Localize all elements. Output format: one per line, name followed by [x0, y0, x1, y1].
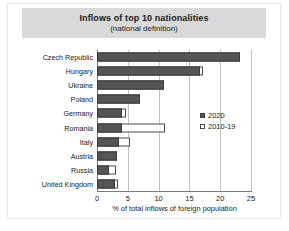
bar-row: United Kingdom [97, 177, 251, 191]
bar-row: Czech Republic [97, 50, 251, 64]
x-tick-label: 10 [154, 194, 162, 203]
category-label: Germany [63, 109, 93, 118]
bar-2020[interactable] [97, 53, 240, 62]
bar-row: Russia [97, 163, 251, 177]
bar-row: Poland [97, 92, 251, 106]
category-label: Italy [80, 137, 93, 146]
legend-item[interactable]: 2010-19 [200, 121, 236, 132]
bar-2020[interactable] [97, 179, 115, 188]
chart-subtitle: (national definition) [110, 24, 178, 34]
bar-group [97, 137, 251, 146]
category-label: Czech Republic [43, 53, 93, 62]
bar-row: Hungary [97, 64, 251, 78]
x-axis-line [97, 191, 252, 192]
bar-group [97, 67, 251, 76]
x-tick-label: 25 [247, 194, 255, 203]
chart-figure: Inflows of top 10 nationalities (nationa… [0, 0, 289, 231]
x-tick-label: 20 [216, 194, 224, 203]
category-label: Romania [64, 123, 93, 132]
bar-row: Austria [97, 149, 251, 163]
title-banner: Inflows of top 10 nationalities (nationa… [22, 8, 266, 38]
bar-row: Ukraine [97, 78, 251, 92]
legend-item[interactable]: 2020 [200, 110, 236, 121]
bar-row: Italy [97, 135, 251, 149]
category-label: Austria [71, 151, 93, 160]
legend-swatch-icon [200, 124, 205, 129]
gridline [251, 50, 252, 191]
legend-label: 2020 [208, 111, 225, 120]
bar-2020[interactable] [97, 137, 119, 146]
bar-group [97, 179, 251, 188]
x-tick-label: 0 [95, 194, 99, 203]
category-label: Poland [71, 95, 93, 104]
bar-group [97, 95, 251, 104]
category-label: Hungary [66, 67, 93, 76]
x-tick-label: 5 [126, 194, 130, 203]
bar-2020[interactable] [97, 165, 109, 174]
bar-2020[interactable] [97, 81, 164, 90]
legend-swatch-icon [200, 113, 205, 118]
bar-2020[interactable] [97, 109, 122, 118]
legend: 20202010-19 [200, 110, 236, 132]
bar-2020[interactable] [97, 123, 122, 132]
category-label: United Kingdom [42, 179, 93, 188]
page-title: Inflows of top 10 nationalities [79, 13, 208, 24]
legend-label: 2010-19 [208, 122, 236, 131]
bar-group [97, 81, 251, 90]
bar-group [97, 165, 251, 174]
category-label: Russia [71, 165, 93, 174]
bar-2020[interactable] [97, 67, 200, 76]
bar-2020[interactable] [97, 151, 117, 160]
bar-group [97, 151, 251, 160]
bar-group [97, 53, 251, 62]
category-label: Ukraine [68, 81, 93, 90]
bar-2020[interactable] [97, 95, 140, 104]
x-axis-title: % of total inflows of foreign population [97, 204, 252, 213]
x-tick-label: 15 [185, 194, 193, 203]
